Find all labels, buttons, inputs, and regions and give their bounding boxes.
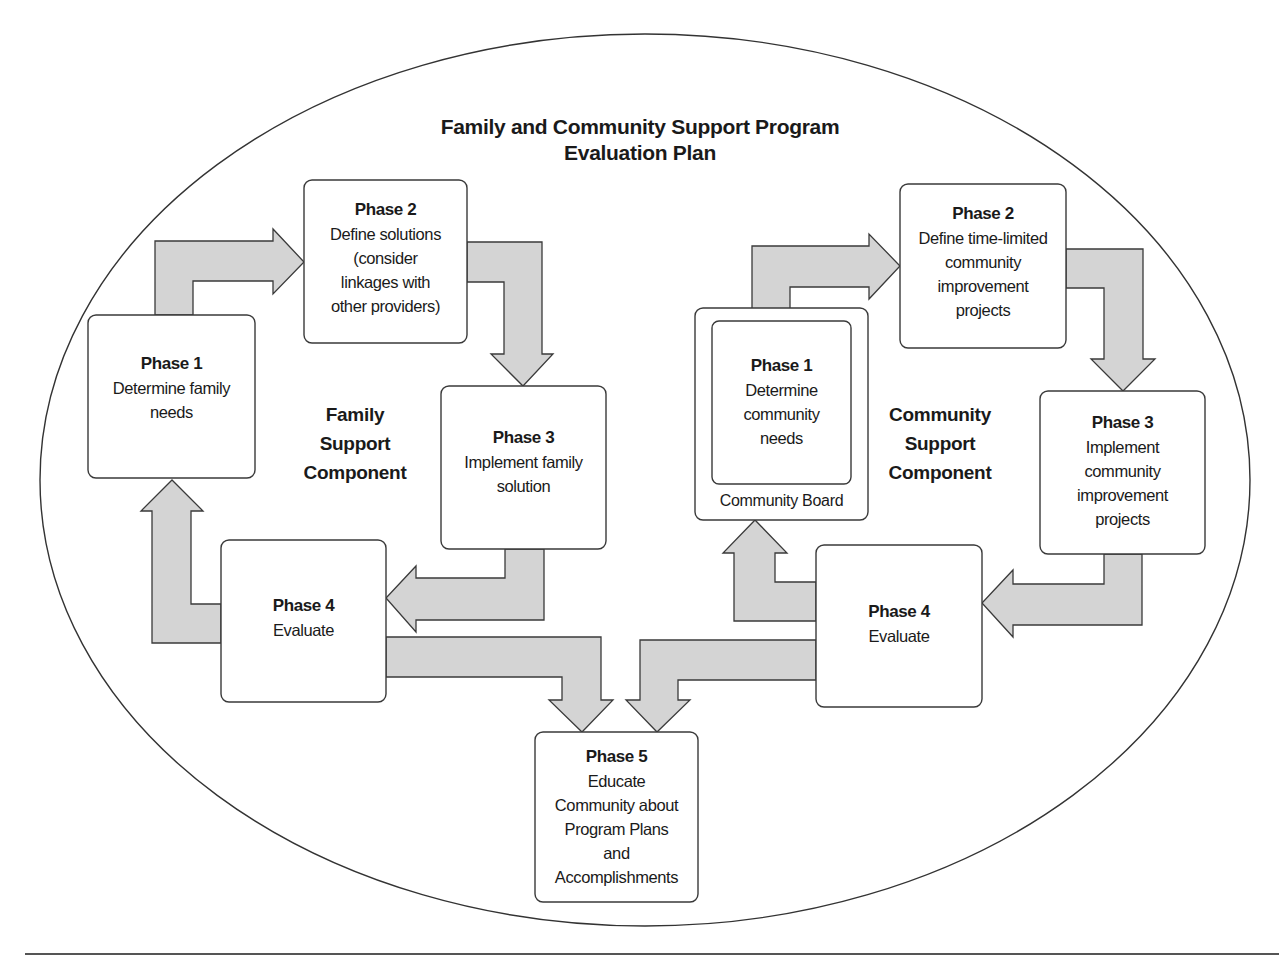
family-phase1-node: Phase 1 Determine family needs <box>88 340 255 436</box>
family-phase4-node: Phase 4 Evaluate <box>221 592 386 644</box>
family-phase2-node: Phase 2 Define solutions (consider linka… <box>304 192 467 324</box>
phase-description: Determine community needs <box>743 378 819 450</box>
phase-label: Phase 1 <box>141 352 202 376</box>
phase-label: Phase 2 <box>355 198 416 222</box>
phase-description: Educate Community about Program Plans an… <box>555 769 678 889</box>
caption-divider <box>25 953 1279 955</box>
community-phase4-node: Phase 4 Evaluate <box>816 598 982 650</box>
phase-label: Phase 4 <box>868 600 929 624</box>
phase-label: Phase 5 <box>586 745 647 769</box>
diagram-title: Family and Community Support Program Eva… <box>340 114 940 166</box>
phase-description: Implement community improvement projects <box>1077 435 1168 531</box>
community-phase2-node: Phase 2 Define time-limited community im… <box>900 198 1066 326</box>
title-line-1: Family and Community Support Program <box>340 114 940 140</box>
phase-label: Phase 4 <box>273 594 334 618</box>
community-board-label: Community Board <box>695 492 868 510</box>
phase-label: Phase 2 <box>952 202 1013 226</box>
phase-description: Evaluate <box>273 618 334 642</box>
phase-label: Phase 1 <box>751 354 812 378</box>
community-phase3-node: Phase 3 Implement community improvement … <box>1040 408 1205 534</box>
family-component-label: Family Support Component <box>290 400 420 487</box>
phase-label: Phase 3 <box>1092 411 1153 435</box>
phase5-node: Phase 5 Educate Community about Program … <box>535 742 698 892</box>
phase-label: Phase 3 <box>493 426 554 450</box>
phase-description: Evaluate <box>868 624 929 648</box>
title-line-2: Evaluation Plan <box>340 140 940 166</box>
phase-description: Determine family needs <box>113 376 230 424</box>
community-component-label: Community Support Component <box>870 400 1010 487</box>
phase-description: Implement family solution <box>464 450 582 498</box>
phase-description: Define solutions (consider linkages with… <box>330 222 441 318</box>
family-phase3-node: Phase 3 Implement family solution <box>441 420 606 504</box>
phase-description: Define time-limited community improvemen… <box>918 226 1047 322</box>
community-phase1-node: Phase 1 Determine community needs <box>712 350 851 454</box>
